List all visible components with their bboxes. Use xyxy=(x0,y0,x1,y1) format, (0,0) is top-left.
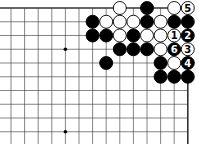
black-stone-move-2: 2 xyxy=(181,29,194,42)
go-board-svg: 512634 xyxy=(0,0,199,144)
black-stone xyxy=(141,2,154,15)
stone-disc xyxy=(127,43,140,56)
white-stone-move-1: 1 xyxy=(168,29,181,42)
white-stone xyxy=(154,29,167,42)
stone-disc xyxy=(141,15,154,28)
white-stone xyxy=(141,29,154,42)
white-stone xyxy=(100,15,113,28)
white-stone xyxy=(168,57,181,70)
move-number-label: 5 xyxy=(184,3,191,14)
black-stone xyxy=(168,15,181,28)
black-stone xyxy=(100,57,113,70)
stone-disc xyxy=(127,29,140,42)
black-stone xyxy=(154,70,167,83)
stone-disc xyxy=(168,57,181,70)
black-stone xyxy=(154,57,167,70)
black-stone xyxy=(86,15,99,28)
black-stone xyxy=(100,29,113,42)
black-stone xyxy=(181,15,194,28)
stone-disc xyxy=(86,15,99,28)
hoshi-point xyxy=(64,47,68,51)
stone-disc xyxy=(168,15,181,28)
hoshi-point xyxy=(64,130,68,134)
white-stone-move-5: 5 xyxy=(181,2,194,15)
move-number-label: 4 xyxy=(184,58,191,69)
black-stone xyxy=(127,29,140,42)
black-stone-move-6: 6 xyxy=(168,43,181,56)
move-number-label: 3 xyxy=(184,44,191,55)
black-stone xyxy=(141,43,154,56)
move-number-label: 2 xyxy=(184,30,191,41)
white-stone xyxy=(113,29,126,42)
white-stone xyxy=(113,15,126,28)
move-number-label: 1 xyxy=(171,30,178,41)
stone-disc xyxy=(168,70,181,83)
black-stone xyxy=(127,43,140,56)
black-stone xyxy=(141,15,154,28)
black-stone xyxy=(168,70,181,83)
stone-disc xyxy=(113,2,126,15)
black-stone xyxy=(113,43,126,56)
move-number-label: 6 xyxy=(171,44,178,55)
stone-disc xyxy=(141,29,154,42)
stone-disc xyxy=(154,29,167,42)
white-stone xyxy=(127,15,140,28)
stone-disc xyxy=(181,15,194,28)
stone-disc xyxy=(100,15,113,28)
stone-disc xyxy=(141,43,154,56)
stone-disc xyxy=(100,29,113,42)
stones: 512634 xyxy=(86,2,194,84)
white-stone xyxy=(154,43,167,56)
stone-disc xyxy=(154,70,167,83)
black-stone xyxy=(181,70,194,83)
black-stone xyxy=(86,29,99,42)
stone-disc xyxy=(168,2,181,15)
stone-disc xyxy=(154,43,167,56)
go-board-diagram: 512634 xyxy=(0,0,199,144)
white-stone xyxy=(154,15,167,28)
black-stone-move-4: 4 xyxy=(181,57,194,70)
stone-disc xyxy=(113,29,126,42)
white-stone xyxy=(113,2,126,15)
stone-disc xyxy=(100,57,113,70)
stone-disc xyxy=(127,15,140,28)
stone-disc xyxy=(154,57,167,70)
stone-disc xyxy=(154,15,167,28)
stone-disc xyxy=(86,29,99,42)
stone-disc xyxy=(181,70,194,83)
stone-disc xyxy=(141,2,154,15)
stone-disc xyxy=(113,15,126,28)
stone-disc xyxy=(113,43,126,56)
white-stone-move-3: 3 xyxy=(181,43,194,56)
white-stone xyxy=(168,2,181,15)
